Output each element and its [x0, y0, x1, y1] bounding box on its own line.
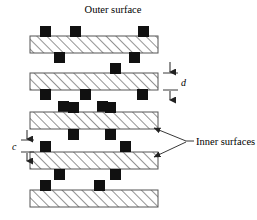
spacer-block [70, 26, 81, 37]
spacer-block [129, 52, 140, 63]
plate-4 [30, 152, 158, 169]
spacer-block [40, 180, 51, 191]
spacer-block [40, 141, 51, 152]
spacer-block [40, 26, 51, 37]
outer-surface-label: Outer surface [85, 4, 142, 15]
spacer-block [105, 102, 116, 113]
spacer-block [120, 141, 131, 152]
spacer-block [137, 89, 148, 100]
dimension-c-label: c [12, 141, 17, 152]
spacer-block [94, 180, 105, 191]
plate-5 [30, 190, 158, 207]
spacer-block [68, 129, 79, 140]
layered-plates-figure: Outer surface [0, 0, 257, 220]
spacer-block [80, 89, 91, 100]
plate-1 [30, 36, 158, 53]
spacer-block [54, 169, 65, 180]
spacer-block [105, 129, 116, 140]
spacer-block [138, 26, 149, 37]
plate-3 [30, 112, 158, 129]
figure-background [0, 0, 257, 220]
spacer-block [110, 63, 121, 74]
spacer-block [110, 169, 121, 180]
spacer-block [54, 52, 65, 63]
spacer-block [68, 102, 79, 113]
inner-surfaces-label: Inner surfaces [196, 136, 255, 147]
spacer-block [40, 89, 51, 100]
diagram-canvas: Outer surface [0, 0, 257, 220]
spacer-block [58, 101, 69, 112]
plate-2 [30, 73, 158, 90]
